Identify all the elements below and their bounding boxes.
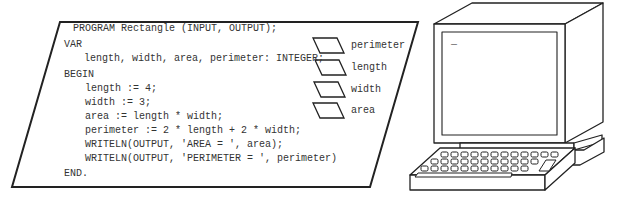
- code-line: WRITELN(OUTPUT, 'AREA = ', area);: [85, 139, 283, 150]
- key-row-3: [421, 166, 528, 171]
- key-row-2: [431, 159, 538, 164]
- code-line: END.: [64, 168, 88, 179]
- screen-cursor: _: [451, 36, 457, 47]
- code-line: WRITELN(OUTPUT, 'PERIMETER = ', perimete…: [85, 153, 337, 164]
- code-line: perimeter := 2 * length + 2 * width;: [85, 125, 301, 136]
- program-code: PROGRAM Rectangle (INPUT, OUTPUT); VAR l…: [0, 0, 12, 132]
- variable-label-length: length: [351, 62, 387, 73]
- code-line: area := length * width;: [85, 111, 223, 122]
- monitor-screen: [442, 32, 557, 135]
- variable-label-width: width: [351, 84, 381, 95]
- space-bar: [415, 173, 512, 177]
- variable-label-area: area: [351, 105, 375, 116]
- monitor-side: [565, 3, 603, 143]
- code-line: length, width, area, perimeter: INTEGER;: [84, 53, 324, 64]
- variable-label-perimeter: perimeter: [351, 40, 405, 51]
- code-line: BEGIN: [64, 69, 94, 80]
- code-line: width := 3;: [85, 97, 151, 108]
- code-line: PROGRAM Rectangle (INPUT, OUTPUT);: [73, 23, 277, 34]
- code-line: VAR: [64, 39, 82, 50]
- code-line: length := 4;: [85, 83, 157, 94]
